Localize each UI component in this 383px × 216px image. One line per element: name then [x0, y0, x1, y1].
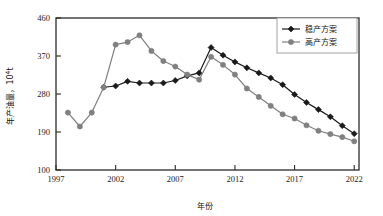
- data-point-marker: [101, 85, 106, 90]
- chart-legend: 稳产方案高产方案: [277, 18, 357, 53]
- data-point-marker: [220, 52, 226, 58]
- data-point-marker: [65, 110, 70, 115]
- data-point-marker: [280, 112, 285, 117]
- data-point-marker: [185, 72, 190, 77]
- data-point-marker: [161, 58, 166, 63]
- data-point-marker: [256, 94, 261, 99]
- chart-container: 100190280370460 199720022007201220172022…: [0, 0, 383, 216]
- data-point-marker: [113, 42, 118, 47]
- data-point-marker: [113, 83, 119, 89]
- line-chart: 100190280370460 199720022007201220172022…: [0, 0, 383, 216]
- data-point-marker: [328, 132, 333, 137]
- y-tick-label: 280: [37, 89, 50, 99]
- x-tick-label: 2012: [226, 174, 243, 184]
- data-point-marker: [137, 80, 143, 86]
- data-point-marker: [256, 70, 262, 76]
- data-point-marker: [304, 123, 309, 128]
- x-axis-ticks: 199720022007201220172022: [48, 165, 363, 184]
- x-tick-label: 2017: [286, 174, 303, 184]
- series-line: [104, 48, 355, 134]
- legend-item-label: 高产方案: [305, 37, 337, 47]
- x-axis-title: 年份: [197, 201, 213, 211]
- data-point-marker: [220, 62, 225, 67]
- data-point-marker: [208, 54, 213, 59]
- y-axis-ticks: 100190280370460: [37, 13, 61, 175]
- data-point-marker: [89, 110, 94, 115]
- data-point-marker: [352, 139, 357, 144]
- svg-text:年产油量，104t: 年产油量，104t: [4, 67, 15, 124]
- data-point-marker: [232, 72, 237, 77]
- data-point-marker: [77, 124, 82, 129]
- data-point-marker: [208, 45, 214, 51]
- data-point-marker: [173, 64, 178, 69]
- data-point-marker: [149, 48, 154, 53]
- data-point-marker: [340, 134, 345, 139]
- data-point-marker: [315, 107, 321, 113]
- data-point-marker: [268, 103, 273, 108]
- x-tick-label: 2002: [107, 174, 124, 184]
- x-tick-label: 2007: [167, 174, 184, 184]
- data-point-marker: [137, 33, 142, 38]
- y-axis-title: 年产油量，104t: [4, 67, 15, 124]
- legend-item-label: 稳产方案: [305, 24, 337, 34]
- x-tick-label: 2022: [346, 174, 363, 184]
- y-tick-label: 190: [37, 127, 50, 137]
- data-point-marker: [160, 80, 166, 86]
- data-point-marker: [232, 59, 238, 65]
- series-stable: [101, 45, 358, 137]
- data-point-marker: [125, 39, 130, 44]
- data-point-marker: [125, 78, 131, 84]
- y-axis-title-main: 年产油量，10: [5, 74, 15, 124]
- data-point-marker: [292, 116, 297, 121]
- data-point-marker: [268, 75, 274, 81]
- data-point-marker: [148, 80, 154, 86]
- x-tick-label: 1997: [48, 174, 65, 184]
- y-tick-label: 370: [37, 51, 50, 61]
- y-axis-title-unit: t: [6, 67, 15, 70]
- data-point-marker: [197, 77, 202, 82]
- y-tick-label: 460: [37, 13, 50, 23]
- data-point-marker: [244, 86, 249, 91]
- legend-marker-icon: [288, 39, 293, 44]
- legend-box: [277, 18, 357, 53]
- data-point-marker: [316, 128, 321, 133]
- data-point-marker: [244, 65, 250, 71]
- data-point-marker: [172, 77, 178, 83]
